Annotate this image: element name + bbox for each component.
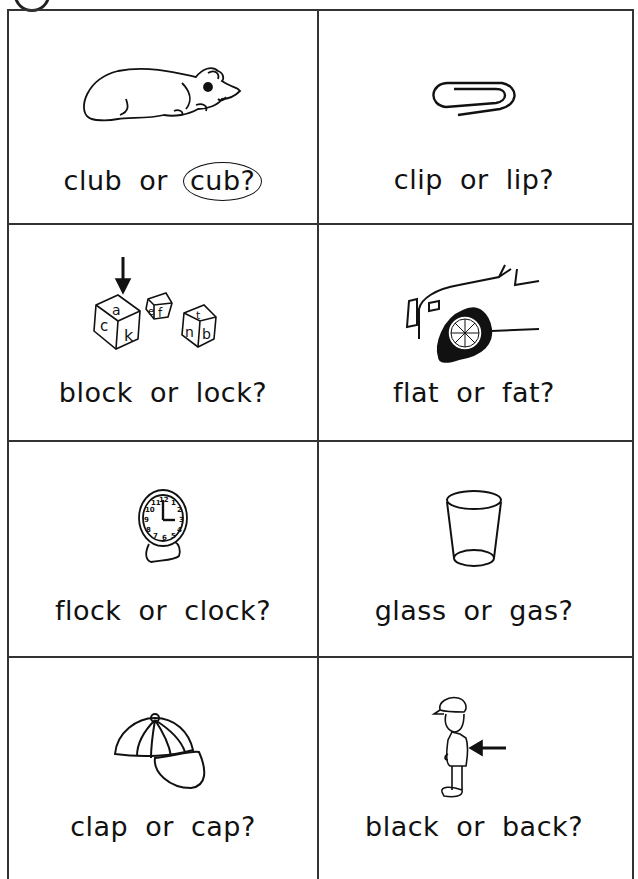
option-b[interactable]: gas? [509, 595, 573, 626]
option-a[interactable]: clip [394, 164, 443, 195]
svg-text:2: 2 [177, 506, 182, 514]
item-caption-6: glass or gas? [319, 595, 629, 626]
svg-text:1: 1 [171, 499, 176, 507]
option-b[interactable]: cap? [191, 811, 256, 842]
item-caption-3: block or lock? [8, 377, 318, 408]
option-b[interactable]: lip? [506, 164, 554, 195]
option-b[interactable]: back? [502, 811, 583, 842]
svg-text:e: e [148, 306, 154, 317]
connector: or [145, 811, 174, 842]
item-caption-5: flock or clock? [8, 595, 318, 626]
option-a[interactable]: block [59, 377, 133, 408]
connector: or [464, 595, 493, 626]
flat-tire-car-icon [319, 259, 629, 365]
svg-text:b: b [202, 326, 211, 342]
option-a[interactable]: black [365, 811, 439, 842]
item-caption-1: club or cub? [8, 162, 318, 201]
item-cell-2: clip or lip? [319, 11, 629, 223]
svg-text:t: t [196, 309, 201, 322]
bear-cub-icon [8, 59, 318, 129]
paper-clip-icon [319, 77, 629, 117]
option-b-circled[interactable]: cub? [183, 162, 262, 201]
letter-blocks-icon: a c k e f t n b [8, 255, 318, 365]
svg-text:8: 8 [146, 526, 151, 534]
svg-text:k: k [124, 326, 134, 345]
option-a[interactable]: glass [375, 595, 447, 626]
item-caption-4: flat or fat? [319, 377, 629, 408]
svg-text:a: a [112, 302, 121, 318]
svg-text:c: c [100, 317, 108, 335]
item-cell-7: clap or cap? [8, 658, 318, 866]
option-a[interactable]: flat [393, 377, 439, 408]
connector: or [456, 377, 485, 408]
svg-text:6: 6 [162, 534, 167, 542]
alarm-clock-icon: 1212 345 678 91011 [8, 488, 318, 564]
item-cell-8: black or back? [319, 658, 629, 866]
svg-text:7: 7 [153, 532, 158, 540]
connector: or [460, 164, 489, 195]
option-b[interactable]: lock? [196, 377, 267, 408]
item-cell-6: glass or gas? [319, 442, 629, 656]
option-b[interactable]: fat? [502, 377, 555, 408]
item-caption-7: clap or cap? [8, 811, 318, 842]
baseball-cap-icon [8, 712, 318, 792]
svg-text:9: 9 [144, 516, 149, 524]
item-caption-8: black or back? [319, 811, 629, 842]
option-a[interactable]: club [64, 165, 123, 196]
item-cell-4: flat or fat? [319, 225, 629, 440]
item-cell-1: club or cub? [8, 11, 318, 223]
item-caption-2: clip or lip? [319, 164, 629, 195]
drinking-glass-icon [319, 490, 629, 570]
item-cell-5: 1212 345 678 91011 flock or clock? [8, 442, 318, 656]
item-cell-3: a c k e f t n b block or lock? [8, 225, 318, 440]
option-a[interactable]: flock [55, 595, 122, 626]
svg-text:4: 4 [177, 526, 182, 534]
svg-text:n: n [185, 324, 194, 340]
connector: or [456, 811, 485, 842]
svg-text:5: 5 [171, 532, 176, 540]
connector: or [150, 377, 179, 408]
boy-back-arrow-icon [319, 694, 629, 804]
svg-text:10: 10 [145, 506, 155, 514]
svg-text:3: 3 [179, 516, 184, 524]
option-a[interactable]: clap [70, 811, 128, 842]
connector: or [139, 165, 168, 196]
option-b[interactable]: clock? [184, 595, 271, 626]
svg-text:11: 11 [151, 499, 161, 507]
connector: or [139, 595, 168, 626]
